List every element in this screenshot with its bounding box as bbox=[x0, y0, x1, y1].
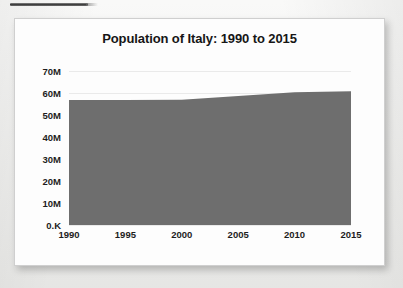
horizontal-rule bbox=[10, 3, 88, 6]
area-series-population-of-italy bbox=[69, 71, 351, 225]
x-axis-tick-label: 2010 bbox=[284, 229, 305, 240]
x-axis-tick-label: 2005 bbox=[228, 229, 249, 240]
y-axis-tick-label: 50M bbox=[43, 110, 61, 121]
y-axis-tick-labels: 70M60M50M40M30M20M10M0.K bbox=[15, 71, 65, 225]
gridline bbox=[69, 225, 351, 226]
horizontal-rule-fade bbox=[86, 3, 98, 6]
x-axis-tick-labels: 199019952000200520102015 bbox=[69, 229, 351, 245]
chart-title: Population of Italy: 1990 to 2015 bbox=[15, 31, 384, 46]
y-axis-tick-label: 70M bbox=[43, 66, 61, 77]
y-axis-tick-label: 10M bbox=[43, 198, 61, 209]
y-axis-tick-label: 20M bbox=[43, 176, 61, 187]
x-axis-tick-label: 1990 bbox=[58, 229, 79, 240]
x-axis-tick-label: 2000 bbox=[171, 229, 192, 240]
chart-card: Population of Italy: 1990 to 2015 70M60M… bbox=[14, 18, 385, 266]
y-axis-tick-label: 60M bbox=[43, 88, 61, 99]
x-axis-tick-label: 2015 bbox=[340, 229, 361, 240]
x-axis-tick-label: 1995 bbox=[115, 229, 136, 240]
y-axis-tick-label: 30M bbox=[43, 154, 61, 165]
y-axis-tick-label: 40M bbox=[43, 132, 61, 143]
plot-area bbox=[69, 71, 351, 225]
